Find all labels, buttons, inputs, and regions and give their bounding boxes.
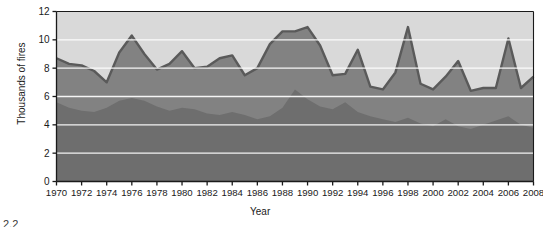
y-axis-title: Thousands of fires <box>16 24 27 144</box>
x-tick-label-1992: 1992 <box>322 187 343 198</box>
x-tick-label-2006: 2006 <box>498 187 519 198</box>
x-tick-label-1972: 1972 <box>71 187 92 198</box>
y-tick-label-8: 8 <box>44 63 50 74</box>
x-axis-title: Year <box>250 206 270 217</box>
x-tick-label-1984: 1984 <box>222 187 244 198</box>
x-tick-label-2002: 2002 <box>448 187 469 198</box>
x-tick-label-1982: 1982 <box>196 187 217 198</box>
x-tick-label-2008: 2008 <box>523 187 543 198</box>
x-tick-label-1980: 1980 <box>171 187 192 198</box>
x-tick-label-1988: 1988 <box>272 187 293 198</box>
x-tick-label-1974: 1974 <box>96 187 118 198</box>
y-tick-label-0: 0 <box>44 176 50 187</box>
x-tick-label-1998: 1998 <box>397 187 418 198</box>
y-tick-label-4: 4 <box>44 119 50 130</box>
x-tick-label-2004: 2004 <box>473 187 495 198</box>
y-tick-label-6: 6 <box>44 91 50 102</box>
y-tick-label-10: 10 <box>38 34 50 45</box>
x-tick-label-2000: 2000 <box>422 187 443 198</box>
stacked-area-chart: 0246810121970197219741976197819801982198… <box>0 0 543 227</box>
x-tick-label-1990: 1990 <box>297 187 318 198</box>
x-tick-label-1970: 1970 <box>46 187 67 198</box>
chart-plot-svg: 0246810121970197219741976197819801982198… <box>0 0 543 227</box>
y-tick-label-2: 2 <box>44 148 50 159</box>
x-tick-label-1976: 1976 <box>121 187 142 198</box>
x-tick-label-1994: 1994 <box>347 187 369 198</box>
x-tick-label-1996: 1996 <box>372 187 393 198</box>
x-tick-label-1978: 1978 <box>146 187 167 198</box>
y-tick-label-12: 12 <box>38 6 50 17</box>
x-tick-label-1986: 1986 <box>247 187 268 198</box>
figure-caption-fragment: 2.2 <box>3 219 18 227</box>
